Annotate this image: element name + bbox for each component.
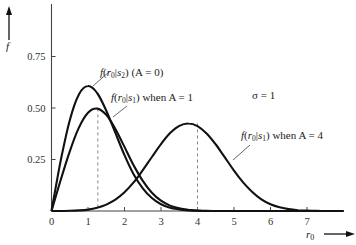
leader-a1 — [113, 106, 127, 117]
y-tick-label: 0.75 — [27, 51, 45, 62]
annotation-a0: f(r0|s2) (A = 0) — [100, 66, 164, 80]
x-tick-label: 7 — [304, 216, 309, 227]
x-tick-label: 1 — [85, 216, 90, 227]
y-tick-label: 0.50 — [27, 103, 45, 114]
annotation-a1: f(r0|s1) when A = 1 — [111, 91, 193, 105]
x-tick-label: 3 — [158, 216, 163, 227]
x-tick-label: 0 — [49, 216, 54, 227]
x-axis-arrow-icon — [324, 231, 355, 237]
y-axis-arrow-icon — [6, 6, 12, 40]
x-tick-label: 2 — [122, 216, 127, 227]
annotation-a4: f(r0|s1) when A = 4 — [241, 129, 323, 143]
leader-a4 — [233, 145, 250, 160]
y-tick-label: 0.25 — [27, 154, 45, 165]
sigma-label: σ = 1 — [252, 89, 275, 101]
x-axis-label: r0 — [306, 228, 314, 242]
chart: 0.250.500.75 01234567 f r0 f(r0|s2) (A =… — [0, 0, 356, 245]
x-tick-label: 5 — [231, 216, 236, 227]
x-tick-label: 4 — [195, 216, 201, 227]
y-axis-label: f — [6, 40, 11, 52]
x-tick-label: 6 — [268, 216, 273, 227]
